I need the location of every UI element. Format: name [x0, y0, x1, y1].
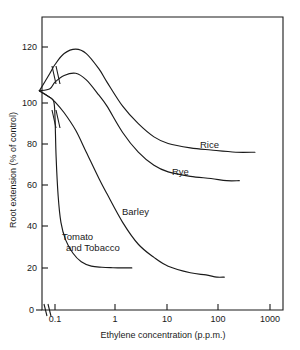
series-label-rice: Rice [200, 139, 219, 150]
y-axis-title: Root extension (% of control) [8, 112, 18, 228]
chart-background [0, 0, 300, 350]
y-tick-label-60: 60 [27, 180, 37, 190]
series-label-tobacco: and Tobacco [66, 242, 120, 253]
line-chart: 0.1 1 10 100 1000 120 100 80 60 40 20 0 [0, 0, 300, 350]
y-tick-label-100: 100 [22, 98, 37, 108]
series-label-rye: Rye [172, 166, 189, 177]
y-tick-label-120: 120 [22, 42, 37, 52]
x-tick-label-1000: 1000 [260, 314, 280, 324]
series-label-tomato: Tomato [62, 231, 93, 242]
y-tick-label-40: 40 [27, 221, 37, 231]
x-tick-label-100: 100 [210, 314, 225, 324]
figure-container: 0.1 1 10 100 1000 120 100 80 60 40 20 0 [0, 0, 300, 350]
y-tick-label-20: 20 [27, 263, 37, 273]
x-tick-label-1: 1 [112, 314, 117, 324]
series-label-barley: Barley [122, 206, 149, 217]
x-axis-title: Ethylene concentration (p.p.m.) [100, 330, 225, 340]
x-tick-label-10: 10 [162, 314, 172, 324]
x-tick-label-0.1: 0.1 [49, 314, 62, 324]
y-tick-label-80: 80 [27, 139, 37, 149]
y-tick-label-0: 0 [29, 305, 34, 315]
